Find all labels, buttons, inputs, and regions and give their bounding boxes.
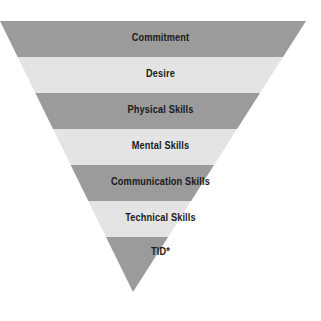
- pyramid-graphic: [0, 0, 321, 321]
- pyramid-band-3: [35, 93, 260, 129]
- pyramid-band-6: [88, 201, 191, 237]
- inverted-pyramid-diagram: CommitmentDesirePhysical SkillsMental Sk…: [0, 0, 321, 321]
- pyramid-band-shapes: [0, 21, 306, 292]
- pyramid-band-2: [18, 57, 283, 93]
- pyramid-band-7: [106, 237, 168, 292]
- pyramid-band-1: [0, 21, 306, 57]
- pyramid-band-5: [71, 165, 214, 201]
- pyramid-band-4: [53, 129, 237, 165]
